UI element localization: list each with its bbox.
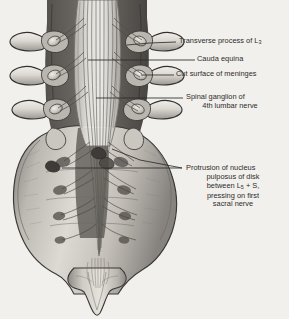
label-transverse-process: Transverse process of L3 <box>179 37 262 47</box>
label-disk-protrusion-line3-prefix: between L <box>207 181 241 190</box>
label-cut-surface-meninges: Cut surface of meninges <box>176 70 257 79</box>
label-transverse-process-text: Transverse process of L <box>179 36 258 45</box>
dural-sac-cut-surface <box>74 0 120 146</box>
label-disk-protrusion-line3-suffix: + S, <box>244 181 259 190</box>
label-disk-protrusion-line5: sacral nerve <box>186 200 280 209</box>
label-transverse-process-subscript: 3 <box>258 39 261 45</box>
label-cauda-equina: Cauda equina <box>197 55 243 64</box>
label-disk-protrusion: Protrusion of nucleus pulposus of disk b… <box>186 164 286 209</box>
illustration-canvas <box>0 0 289 319</box>
label-spinal-ganglion-line2: 4th lumbar nerve <box>186 102 274 111</box>
label-spinal-ganglion: Spinal ganglion of 4th lumbar nerve <box>186 93 284 111</box>
anatomical-figure: Transverse process of L3 Cauda equina Cu… <box>0 0 289 319</box>
